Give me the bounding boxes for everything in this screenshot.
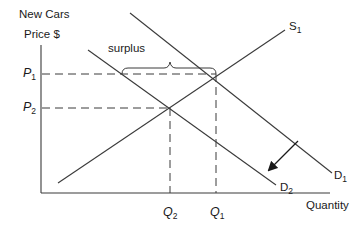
surplus-brace [122,62,216,74]
p1-label: P1 [23,67,36,82]
q2-label: Q2 [163,206,177,221]
chart-title: New Cars [19,9,69,21]
d1-label: D1 [334,170,347,184]
surplus-label: surplus [108,43,145,55]
d2-label: D2 [280,182,293,196]
q1-label: Q1 [210,206,224,221]
demand-curve-d2 [88,50,276,185]
x-axis-label: Quantity [306,200,349,212]
shift-arrow [269,141,298,170]
y-axis-label: Price $ [24,29,60,41]
s1-label: S1 [289,21,301,35]
p2-label: P2 [23,101,36,116]
demand-curve-d1 [130,13,332,173]
